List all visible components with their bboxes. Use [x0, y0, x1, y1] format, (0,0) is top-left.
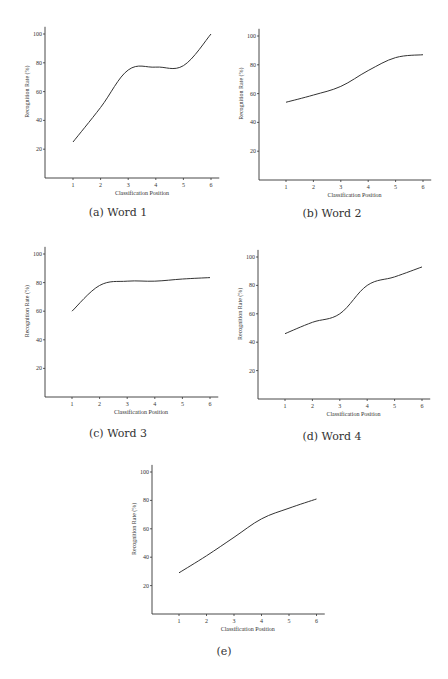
y-tick-label: 20 [143, 583, 149, 589]
x-tick-label: 3 [233, 618, 236, 624]
line-chart-e: 20406080100123456Classification Position… [0, 0, 448, 650]
x-tick-label: 1 [178, 618, 181, 624]
y-tick-label: 60 [143, 526, 149, 532]
x-tick-label: 5 [288, 618, 291, 624]
y-tick-label: 80 [143, 497, 149, 503]
y-axis-label: Recognition Rate (%) [131, 503, 138, 555]
x-tick-label: 4 [260, 618, 263, 624]
data-series-line [179, 499, 317, 573]
x-axis-label: Classification Position [221, 626, 275, 632]
chart-panel-e: 20406080100123456Classification Position… [0, 0, 448, 679]
caption-e: (e) [216, 645, 231, 658]
x-tick-label: 2 [205, 618, 208, 624]
y-tick-label: 40 [143, 554, 149, 560]
y-tick-label: 100 [140, 469, 149, 475]
x-tick-label: 6 [315, 618, 318, 624]
